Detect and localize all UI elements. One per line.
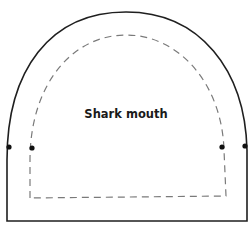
inner-right-dot [219,144,224,149]
outer-right-dot [242,143,247,148]
outer-left-dot [6,144,11,149]
pattern-label: Shark mouth [84,107,167,121]
inner-left-dot [29,145,34,150]
shark-mouth-pattern: Shark mouth [0,0,252,225]
